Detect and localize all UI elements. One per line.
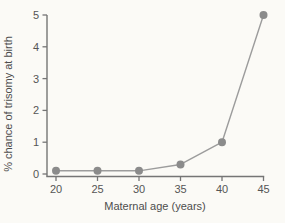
y-axis-title: % chance of trisomy at birth	[2, 36, 14, 172]
data-point-marker	[52, 167, 60, 175]
y-tick-label: 5	[33, 9, 39, 21]
y-tick-label: 0	[33, 168, 39, 180]
y-tick-label: 4	[33, 41, 39, 53]
data-point-marker	[94, 167, 102, 175]
x-axis-title: Maternal age (years)	[104, 200, 206, 212]
data-point-marker	[135, 167, 143, 175]
x-tick-label: 30	[133, 183, 145, 195]
x-tick-label: 40	[216, 183, 228, 195]
series-layer	[52, 11, 268, 175]
series-line	[56, 15, 264, 171]
y-tick-label: 1	[33, 136, 39, 148]
axes-layer: 012345202530354045	[33, 9, 270, 195]
x-tick-label: 25	[91, 183, 103, 195]
data-point-marker	[260, 11, 268, 19]
data-point-marker	[177, 160, 185, 168]
y-tick-label: 2	[33, 104, 39, 116]
x-tick-label: 45	[257, 183, 269, 195]
x-tick-label: 35	[174, 183, 186, 195]
data-point-marker	[218, 138, 226, 146]
x-tick-label: 20	[50, 183, 62, 195]
y-tick-label: 3	[33, 73, 39, 85]
trisomy-risk-chart: 012345202530354045 Maternal age (years) …	[0, 0, 285, 223]
trisomy-risk-chart-canvas: 012345202530354045 Maternal age (years) …	[0, 0, 285, 223]
